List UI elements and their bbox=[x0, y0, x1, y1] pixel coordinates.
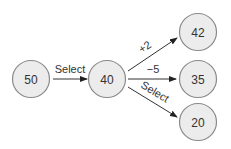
node-label: 50 bbox=[24, 73, 38, 87]
node-20: 20 bbox=[180, 104, 217, 141]
edge-label-minus5: −5 bbox=[147, 63, 160, 75]
edge-label-plus2: +2 bbox=[136, 38, 153, 55]
edge-label-select-2: Select bbox=[139, 79, 171, 105]
diagram-canvas: Select +2 −5 Select 50 40 42 35 20 bbox=[0, 0, 231, 149]
node-label: 42 bbox=[191, 26, 205, 40]
node-label: 20 bbox=[191, 116, 205, 130]
node-label: 40 bbox=[100, 73, 114, 87]
node-40: 40 bbox=[89, 61, 126, 98]
node-label: 35 bbox=[191, 73, 205, 87]
node-35: 35 bbox=[180, 61, 217, 98]
node-50: 50 bbox=[13, 61, 50, 98]
node-42: 42 bbox=[180, 14, 217, 51]
edge-label-select-1: Select bbox=[55, 63, 86, 75]
